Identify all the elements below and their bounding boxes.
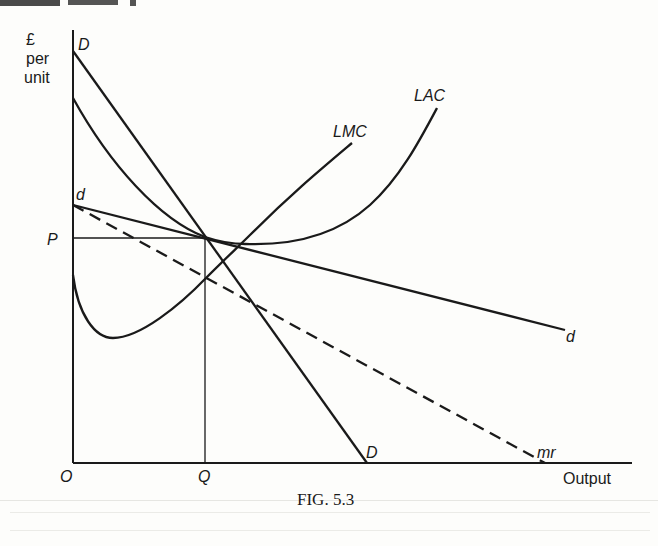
label-d-right: d: [566, 328, 576, 345]
y-axis-label-per: per: [26, 50, 50, 67]
label-Q: Q: [198, 468, 210, 485]
label-P: P: [47, 231, 58, 248]
label-D-top: D: [78, 36, 90, 53]
label-origin: O: [60, 468, 72, 485]
label-LMC: LMC: [333, 123, 367, 140]
curve-LAC: [73, 98, 437, 244]
label-mr: mr: [537, 444, 556, 461]
y-axis-label-unit: unit: [24, 69, 50, 86]
x-axis-label: Output: [563, 470, 612, 487]
curve-D: [73, 51, 367, 463]
label-D-bottom: D: [366, 444, 378, 461]
curve-d: [73, 205, 565, 330]
curve-mr: [73, 205, 545, 463]
economics-diagram: £ per unit D d P LMC LAC d D mr O Q Outp…: [0, 0, 658, 546]
label-LAC: LAC: [414, 87, 446, 104]
label-d-top: d: [76, 186, 86, 203]
bleed-through-text: [0, 0, 658, 531]
figure-caption: FIG. 5.3: [297, 490, 354, 509]
y-axis-label-currency: £: [26, 31, 35, 48]
